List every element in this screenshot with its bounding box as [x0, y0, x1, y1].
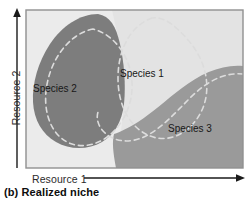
x-axis-label: Resource 1: [32, 173, 87, 185]
species-2-label: Species 2: [33, 83, 77, 94]
realized-niche-figure: Resource 2 Resource 1 Species 1 Species …: [0, 0, 250, 203]
species-1-label: Species 1: [120, 68, 164, 79]
figure-caption: (b) Realized niche: [4, 186, 99, 198]
species-3-label: Species 3: [168, 123, 212, 134]
x-axis-arrow: [84, 174, 245, 182]
y-axis-label: Resource 2: [10, 58, 22, 138]
